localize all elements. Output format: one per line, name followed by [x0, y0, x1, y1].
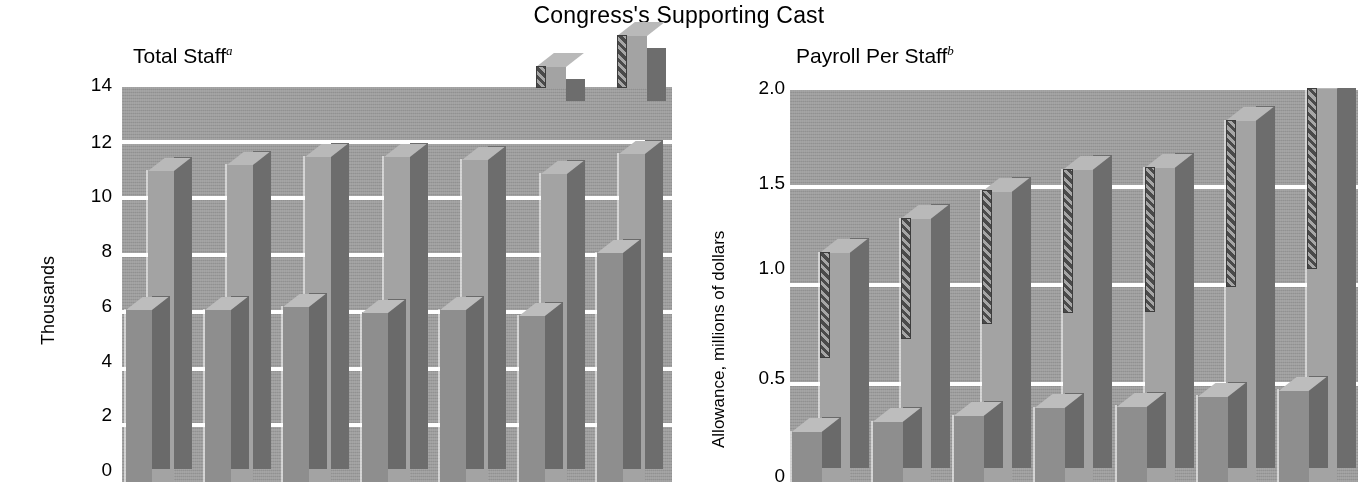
y-tick-label: 0.5 [729, 367, 785, 389]
bar-side-face [1175, 153, 1194, 468]
bar-front-face [205, 309, 231, 482]
bar-front-face [1035, 407, 1065, 482]
chart-panel-total-staff: Total Staffa Thousands 14121086420 [0, 0, 690, 482]
bar-side-face [1256, 106, 1275, 468]
y-tick-label: 8 [66, 240, 112, 262]
bar-short [1198, 395, 1228, 482]
bar-overflow-side [566, 79, 585, 101]
bar-side-face [231, 296, 249, 469]
bar-side-face [488, 146, 506, 469]
bar-hatched-edge [1307, 88, 1317, 269]
bar-side-face [1309, 376, 1328, 469]
bar-separator [438, 309, 440, 482]
bar-separator [124, 309, 126, 482]
bar-hatched-edge [982, 190, 992, 324]
y-tick-label: 0 [66, 459, 112, 481]
bar-side-face [850, 238, 869, 468]
bar-front-face [873, 421, 903, 482]
bar-short [597, 252, 623, 482]
bar-separator [790, 431, 792, 482]
bar-side-face [174, 157, 192, 469]
bar-overflow-hatched-edge [536, 66, 546, 88]
y-axis-title-right: Allowance, millions of dollars [709, 231, 729, 448]
bar-short [1279, 389, 1309, 482]
bar-front-face [440, 309, 466, 482]
bar-overflow-side [647, 48, 666, 101]
bar-short [1035, 407, 1065, 482]
bar-side-face [931, 204, 950, 468]
panel-title-text: Payroll Per Staff [796, 44, 947, 67]
bar-separator [1115, 405, 1117, 482]
y-axis-title-left: Thousands [38, 256, 59, 345]
bar-short [873, 421, 903, 482]
y-tick-label: 14 [66, 74, 112, 96]
y-tick-label: 0 [729, 465, 785, 482]
bar-separator [871, 421, 873, 482]
bar-hatched-edge [1145, 167, 1155, 312]
y-tick-label: 1.5 [729, 172, 785, 194]
bar-side-face [545, 302, 563, 469]
bar-short [440, 309, 466, 482]
y-tick-label: 10 [66, 185, 112, 207]
bar-separator [517, 315, 519, 482]
bar-front-face [792, 431, 822, 482]
bar-side-face [152, 296, 170, 469]
bar-short [205, 309, 231, 482]
y-tick-label: 12 [66, 131, 112, 153]
y-tick-label: 4 [66, 350, 112, 372]
bar-front-face [1117, 405, 1147, 482]
bar-short [954, 415, 984, 482]
y-tick-label: 2.0 [729, 77, 785, 99]
bar-front-face [1279, 389, 1309, 482]
bar-separator [360, 312, 362, 482]
y-tick-label: 1.0 [729, 257, 785, 279]
bar-hatched-edge [1063, 169, 1073, 313]
bar-short [362, 312, 388, 482]
bar-separator [1033, 407, 1035, 482]
bar-side-face [567, 160, 585, 469]
bar-side-face [331, 143, 349, 469]
bar-front-face [954, 415, 984, 482]
bar-separator [952, 415, 954, 482]
bar-side-face [253, 151, 271, 469]
gridline [122, 85, 672, 87]
bar-side-face [1012, 177, 1031, 469]
bar-separator [1277, 389, 1279, 482]
bar-side-face [309, 293, 327, 469]
chart-panel-payroll-per-staff: Payroll Per Staffb Allowance, millions o… [690, 0, 1358, 482]
bar-short [1117, 405, 1147, 482]
bar-side-face [645, 140, 663, 469]
bar-front-face [1198, 395, 1228, 482]
panel-title-superscript: b [947, 43, 954, 58]
bar-front-face [362, 312, 388, 482]
plot-area-total-staff [122, 85, 672, 482]
bar-hatched-edge [820, 252, 830, 358]
panel-title-superscript: a [226, 43, 233, 58]
bar-overflow-hatched-edge [617, 35, 627, 88]
bar-short [283, 306, 309, 482]
bar-front-face [519, 315, 545, 482]
bar-separator [595, 252, 597, 482]
bar-side-face [1337, 88, 1356, 468]
bar-separator [1196, 395, 1198, 482]
plot-area-payroll-per-staff [790, 88, 1358, 482]
gridline [122, 140, 672, 144]
bar-hatched-edge [1226, 120, 1236, 287]
bar-side-face [1093, 155, 1112, 468]
bar-hatched-edge [901, 218, 911, 339]
bar-separator [203, 309, 205, 482]
y-tick-label: 2 [66, 404, 112, 426]
bar-short [792, 431, 822, 482]
bar-front-face [126, 309, 152, 482]
bar-side-face [388, 299, 406, 469]
bar-short [519, 315, 545, 482]
panel-title-payroll-per-staff: Payroll Per Staffb [796, 43, 954, 68]
bar-front-face [283, 306, 309, 482]
bar-side-face [623, 239, 641, 469]
bar-side-face [410, 143, 428, 469]
gridline [790, 88, 1358, 90]
bar-separator [281, 306, 283, 482]
bar-front-face [597, 252, 623, 482]
y-tick-label: 6 [66, 295, 112, 317]
bar-side-face [466, 296, 484, 469]
